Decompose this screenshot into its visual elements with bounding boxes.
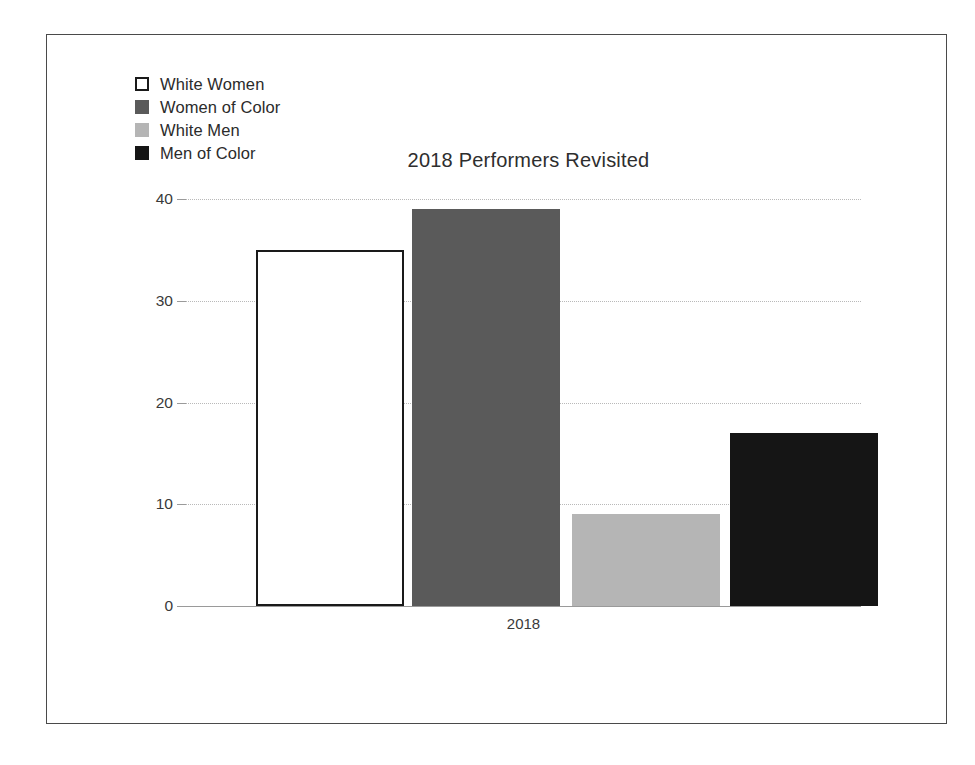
gridline-40	[186, 199, 861, 200]
x-axis-baseline	[186, 606, 861, 607]
plot-area: 010203040	[186, 199, 861, 606]
legend-item-white-women: White Women	[135, 73, 395, 95]
y-axis-tick-label-0: 0	[164, 597, 173, 615]
x-axis-tick-2018: 2018	[507, 615, 540, 632]
legend-item-women-of-color: Women of Color	[135, 96, 395, 118]
legend-label-white-men: White Men	[160, 121, 240, 139]
chart-title: 2018 Performers Revisited	[47, 149, 948, 172]
y-axis-tick-mark-0	[177, 606, 186, 607]
figure-frame: White Women Women of Color White Men Men…	[46, 34, 947, 724]
legend-swatch-white-men	[135, 123, 149, 137]
legend-swatch-women-of-color	[135, 100, 149, 114]
legend-label-women-of-color: Women of Color	[160, 98, 280, 116]
y-axis-tick-label-40: 40	[156, 190, 173, 208]
bar-chart-figure: White Women Women of Color White Men Men…	[47, 35, 948, 725]
bar-white-men	[572, 514, 720, 606]
x-axis-tick-labels: 2018	[186, 615, 861, 633]
y-axis-tick-mark-40	[177, 199, 186, 200]
legend-swatch-white-women	[135, 77, 149, 91]
bar-men-of-color	[730, 433, 878, 606]
y-axis-tick-mark-10	[177, 504, 186, 505]
legend-item-white-men: White Men	[135, 119, 395, 141]
y-axis-tick-label-20: 20	[156, 394, 173, 412]
y-axis-tick-mark-30	[177, 301, 186, 302]
y-axis-tick-label-30: 30	[156, 292, 173, 310]
y-axis-tick-label-10: 10	[156, 495, 173, 513]
bar-white-women	[256, 250, 404, 606]
bar-women-of-color	[412, 209, 560, 606]
legend-label-white-women: White Women	[160, 75, 264, 93]
y-axis-tick-mark-20	[177, 403, 186, 404]
